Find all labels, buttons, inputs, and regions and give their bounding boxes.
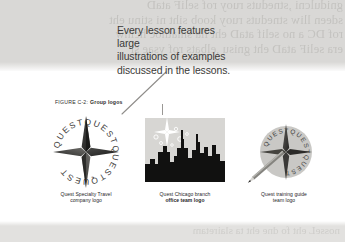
chicago-skyline-icon (143, 112, 227, 190)
figure-page: gnidulcni ,stneduts ruoy rof seliF ataD … (0, 0, 345, 242)
logo-caption: Quest training guide team logo (261, 191, 307, 204)
logo-caption-line2: team logo (261, 197, 307, 203)
compass-with-pencil-icon: QUESTQUESTQUEST (242, 112, 326, 190)
figure-title: Group logos (90, 99, 122, 105)
logo-caption-line2: company logo (60, 197, 111, 203)
logo-caption: Quest Specialty Travel company logo (60, 191, 111, 204)
logo-row: QUESTQUESTQUESTQUEST Quest Specialty Tra… (40, 112, 330, 216)
logo-caption: Quest Chicago branch office team logo (160, 191, 211, 204)
callout-annotation-text: Every lesson features large illustration… (117, 24, 239, 77)
compass-star-icon: QUESTQUESTQUESTQUEST (44, 112, 128, 190)
logo-item-quest-chicago-branch: Quest Chicago branch office team logo (139, 112, 231, 204)
logo-item-quest-training-guide: QUESTQUESTQUEST (238, 112, 330, 204)
figure-number: FIGURE C-2: (55, 99, 88, 105)
background-bottom-ghost-text: nosseL eht fo dne eht ta slairetam (10, 224, 340, 237)
callout-tick-mark (162, 104, 163, 115)
logo-caption-line2: office team logo (160, 197, 211, 203)
background-bottom-band: nosseL eht fo dne eht ta slairetam (0, 221, 345, 242)
logo-item-quest-specialty-travel: QUESTQUESTQUESTQUEST Quest Specialty Tra… (40, 112, 132, 204)
figure-caption: FIGURE C-2:Group logos (55, 99, 123, 105)
